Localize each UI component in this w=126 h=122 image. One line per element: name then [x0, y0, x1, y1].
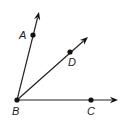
angle-diagram: ADCB [0, 0, 126, 122]
point-d [67, 49, 72, 54]
ray-bd [17, 41, 84, 100]
label-d: D [68, 56, 76, 68]
point-a [30, 32, 35, 37]
label-b: B [12, 105, 19, 117]
point-c [88, 97, 93, 102]
label-a: A [18, 29, 26, 41]
point-b [14, 97, 19, 102]
label-c: C [87, 105, 95, 117]
